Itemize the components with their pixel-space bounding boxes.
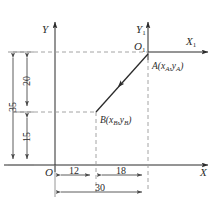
vector-b-to-o1 <box>96 54 148 112</box>
dim-value-lower-vertical: 15 <box>22 126 32 148</box>
secondary-axes <box>148 22 208 60</box>
point-a-label: A(xA,yA) <box>152 62 184 73</box>
x1-axis-label: X1 <box>186 36 196 49</box>
secondary-origin-label-sub: 1 <box>142 46 146 54</box>
dim-value-total-vertical: 35 <box>8 96 18 118</box>
vector-line <box>96 54 148 112</box>
x1-axis-label-sub: 1 <box>193 41 197 49</box>
coordinate-diagram-figure: Y X O Y1 X1 O1 A(xA,yA) B(xB,yB) 35 20 1… <box>0 0 222 210</box>
y1-axis-label-sub: 1 <box>142 29 146 37</box>
x1-axis-label-base: X <box>186 35 193 47</box>
point-b-label: B(xB,yB) <box>100 116 132 127</box>
secondary-origin-label: O1 <box>134 41 145 54</box>
secondary-origin-label-base: O <box>134 40 142 52</box>
y1-axis-label: Y1 <box>136 24 146 37</box>
y-axis-label: Y <box>42 24 48 35</box>
diagram-canvas <box>0 0 222 210</box>
dim-value-total-horizontal: 30 <box>95 183 105 193</box>
dim-value-upper-vertical: 20 <box>22 70 32 92</box>
origin-label: O <box>45 167 53 178</box>
x-axis-label: X <box>200 167 207 178</box>
primary-axes <box>4 22 208 172</box>
dim-value-right-horizontal: 18 <box>116 166 126 176</box>
dim-value-left-horizontal: 12 <box>69 166 79 176</box>
